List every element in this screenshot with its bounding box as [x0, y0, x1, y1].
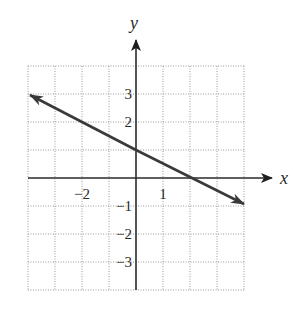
coordinate-plane: x y −2 1 3 2 −1 −2 −3: [0, 0, 293, 313]
y-axis-label: y: [128, 13, 138, 33]
x-tick-label: 1: [159, 186, 167, 202]
y-tick-label: 2: [125, 114, 133, 130]
x-axis-label: x: [279, 168, 288, 188]
y-tick-label: −2: [116, 226, 132, 242]
plotted-line: [136, 150, 244, 204]
y-tick-label: −3: [116, 254, 132, 270]
x-tick-label: −2: [74, 186, 90, 202]
y-tick-label: −1: [116, 198, 132, 214]
y-tick-label: 3: [125, 86, 133, 102]
